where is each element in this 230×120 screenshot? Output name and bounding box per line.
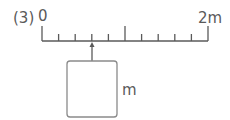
pointer-arrow-head [90,42,95,47]
answer-box[interactable] [67,61,117,117]
answer-unit-label: m [122,83,137,98]
